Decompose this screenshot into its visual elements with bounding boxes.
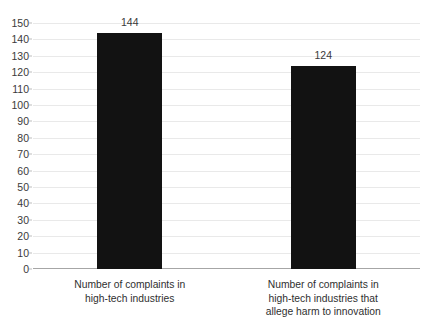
category-label-line: high-tech industries <box>74 292 185 306</box>
x-axis-category-label: Number of complaints inhigh-tech industr… <box>74 278 185 305</box>
gridline <box>33 203 420 204</box>
y-axis-tick-mark <box>29 154 32 155</box>
y-axis-tick-label: 100 <box>11 100 29 111</box>
y-axis-tick-mark <box>29 187 32 188</box>
y-axis-tick-label: 120 <box>11 67 29 78</box>
y-axis-tick-mark <box>29 121 32 122</box>
y-axis-tick-mark <box>29 72 32 73</box>
y-axis: 0102030405060708090100110120130140150 <box>0 23 29 269</box>
y-axis-tick-mark <box>29 236 32 237</box>
bar <box>291 66 356 269</box>
bar-chart: 0102030405060708090100110120130140150 14… <box>0 0 435 326</box>
y-axis-tick-mark <box>29 252 32 253</box>
gridline <box>33 171 420 172</box>
y-axis-tick-mark <box>29 23 32 24</box>
y-axis-tick-label: 20 <box>17 231 29 242</box>
y-axis-tick-label: 10 <box>17 247 29 258</box>
y-axis-tick-label: 130 <box>11 51 29 62</box>
x-axis-line <box>33 268 420 269</box>
category-label-line: high-tech industries that <box>266 292 381 306</box>
gridline <box>33 253 420 254</box>
y-axis-tick-label: 30 <box>17 215 29 226</box>
gridline <box>33 105 420 106</box>
bar-value-label: 144 <box>121 17 139 28</box>
gridline <box>33 121 420 122</box>
gridline <box>33 89 420 90</box>
y-axis-tick-mark <box>29 39 32 40</box>
category-label-line: Number of complaints in <box>74 278 185 292</box>
y-axis-tick-label: 80 <box>17 133 29 144</box>
gridline <box>33 72 420 73</box>
y-axis-tick-label: 90 <box>17 116 29 127</box>
gridline <box>33 138 420 139</box>
y-axis-tick-mark <box>29 88 32 89</box>
y-axis-tick-label: 110 <box>12 83 29 94</box>
y-axis-tick-mark <box>29 269 32 270</box>
y-axis-tick-label: 150 <box>11 18 29 29</box>
gridline <box>33 39 420 40</box>
y-axis-tick-label: 140 <box>11 34 29 45</box>
plot-area <box>33 23 420 269</box>
gridline <box>33 56 420 57</box>
gridline <box>33 23 420 24</box>
y-axis-tick-label: 60 <box>17 165 29 176</box>
bar-value-label: 124 <box>314 50 332 61</box>
y-axis-tick-mark <box>29 105 32 106</box>
y-axis-tick-label: 50 <box>17 182 29 193</box>
y-axis-tick-label: 70 <box>17 149 29 160</box>
category-label-line: allege harm to innovation <box>266 305 381 319</box>
gridline <box>33 220 420 221</box>
y-axis-tick-mark <box>29 203 32 204</box>
x-axis-category-label: Number of complaints inhigh-tech industr… <box>266 278 381 319</box>
gridline <box>33 154 420 155</box>
bar <box>97 33 162 269</box>
gridline <box>33 236 420 237</box>
y-axis-tick-mark <box>29 219 32 220</box>
gridline <box>33 187 420 188</box>
y-axis-tick-mark <box>29 170 32 171</box>
y-axis-tick-mark <box>29 137 32 138</box>
category-label-line: Number of complaints in <box>266 278 381 292</box>
y-axis-tick-mark <box>29 55 32 56</box>
y-axis-tick-label: 40 <box>17 198 29 209</box>
